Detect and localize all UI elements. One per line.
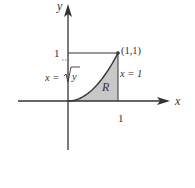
x-axis-label: x xyxy=(174,94,181,108)
point-label: (1,1) xyxy=(121,45,142,57)
vertical-line-label: x = 1 xyxy=(119,68,142,79)
region-label: R xyxy=(101,80,110,94)
diagram: y x 1 1 (1,1) x = 1 R x = y xyxy=(0,0,195,188)
y-tick-label: 1 xyxy=(54,47,60,59)
y-axis-label: y xyxy=(56,0,63,13)
curve-label-lhs: x = xyxy=(44,72,62,83)
x-tick-label: 1 xyxy=(118,112,124,124)
point-1-1-marker xyxy=(116,51,120,55)
curve-label-radicand: y xyxy=(71,71,77,82)
